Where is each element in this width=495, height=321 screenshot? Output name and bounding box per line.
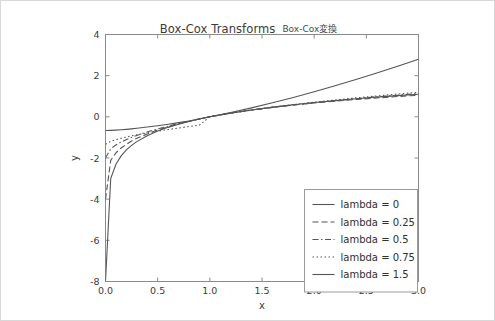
x-axis-title: x (259, 300, 265, 311)
chart-legend[interactable]: lambda = 0lambda = 0.25lambda = 0.5lambd… (305, 190, 418, 293)
legend-item-label: lambda = 0.5 (341, 234, 409, 245)
y-tick-label: 0 (93, 111, 99, 122)
x-tick-label: 0.0 (98, 285, 113, 296)
legend-item-label: lambda = 0.75 (341, 252, 415, 263)
chart-figure: Box-Cox TransformsBox-Cox変換 0.00.51.01.5… (0, 0, 495, 321)
curve-line (106, 59, 419, 130)
curve-line (106, 94, 419, 158)
y-tick-label: -4 (90, 194, 99, 205)
y-tick-label: 4 (93, 29, 99, 40)
legend-item-label: lambda = 1.5 (341, 269, 409, 280)
curve-line (106, 92, 419, 144)
x-tick-label: 1.5 (254, 285, 269, 296)
legend-item-label: lambda = 0.25 (341, 217, 415, 228)
y-axis-title: y (69, 155, 80, 161)
x-tick-label: 1.0 (202, 285, 217, 296)
y-tick-label: -6 (90, 235, 99, 246)
plot-area: 0.00.51.01.52.02.53.0-8-6-4-2024xy lambd… (1, 1, 495, 321)
y-tick-label: -8 (90, 276, 99, 287)
curve-line (106, 95, 419, 199)
x-tick-label: 0.5 (150, 285, 165, 296)
y-tick-label: -2 (90, 153, 99, 164)
legend-item-label: lambda = 0 (341, 199, 400, 210)
y-tick-label: 2 (93, 70, 99, 81)
